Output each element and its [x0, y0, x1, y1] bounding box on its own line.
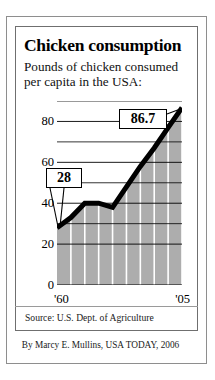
callout-leader [50, 188, 58, 227]
callout-end-value: 86.7 [119, 109, 167, 129]
callout-start-value: 28 [46, 168, 82, 188]
source-divider [15, 306, 198, 307]
chart-title: Chicken consumption [24, 35, 192, 55]
chart-subtitle: Pounds of chicken consumed per capita in… [24, 60, 196, 89]
callout-leader [60, 188, 64, 227]
chart-area: 020406080 28 86.7 '60 '05 [24, 96, 190, 296]
source-note: Source: U.S. Dept. of Agriculture [25, 312, 200, 323]
chart-page: Chicken consumption Pounds of chicken co… [0, 0, 215, 380]
chart-subtitle-line1: Pounds of chicken consumed [24, 60, 196, 75]
chart-subtitle-line2: per capita in the USA: [24, 75, 196, 90]
credit-note: By Marcy E. Mullins, USA TODAY, 2006 [0, 340, 201, 350]
